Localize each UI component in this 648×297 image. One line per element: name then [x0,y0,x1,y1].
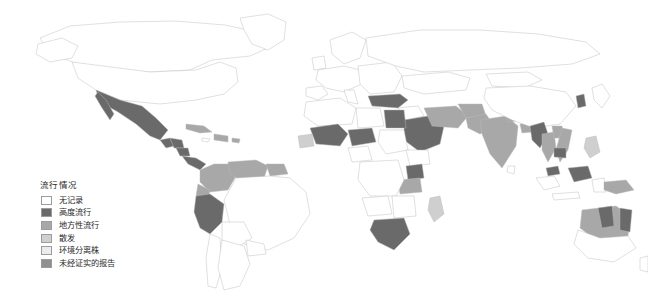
country-eastern-europe [358,62,402,94]
country-kenya [406,164,424,180]
legend-label-environmental-isolate: 环境分离株 [59,245,99,256]
country-sumatra [536,176,560,190]
country-malaysia [546,166,560,176]
legend-item-environmental-isolate[interactable]: 环境分离株 [38,244,168,257]
legend-label-unconfirmed-report: 未经证实的报告 [59,258,115,269]
country-costa-rica-panama [182,156,206,170]
country-jamaica [202,138,210,142]
country-libya [356,108,384,128]
region-australia-queensland [620,208,632,232]
legend-item-endemic[interactable]: 地方性流行 [38,219,168,232]
country-mongolia [486,72,542,88]
country-scandinavia [330,32,366,64]
legend-label-endemic: 地方性流行 [59,220,99,231]
country-java [552,192,580,200]
country-japan [592,84,610,108]
legend-title: 流行情况 [40,180,168,191]
country-sudan [378,130,408,154]
country-british-isles [312,56,326,70]
legend-item-no-record[interactable]: 无记录 [38,194,168,207]
country-turkey [368,94,408,108]
swatch-environmental-isolate [41,246,52,255]
legend-label-highly-endemic: 高度流行 [59,207,91,218]
swatch-highly-endemic [41,208,52,217]
country-korea [576,94,586,108]
country-egypt [384,110,406,128]
legend-item-highly-endemic[interactable]: 高度流行 [38,207,168,220]
country-ethiopia [406,150,430,166]
country-kazakhstan [402,72,470,94]
country-south-africa [370,218,410,250]
country-nicaragua [176,148,190,156]
country-puerto-rico [232,138,240,143]
country-peru [194,194,224,234]
swatch-no-record [41,196,52,205]
country-mali [310,124,348,146]
country-russia [366,30,600,72]
country-borneo [568,166,592,182]
world-prevalence-map: 流行情况 无记录 高度流行 地方性流行 散发 环境分离株 未经证实的报告 [0,0,648,297]
country-india [480,116,518,168]
legend-item-sporadic[interactable]: 散发 [38,232,168,245]
legend-label-sporadic: 散发 [59,233,75,244]
country-iberia [306,86,328,100]
legend-item-unconfirmed-report[interactable]: 未经证实的报告 [38,257,168,270]
legend: 流行情况 无记录 高度流行 地方性流行 散发 环境分离株 未经证实的报告 [38,180,168,270]
country-new-zealand [640,256,648,272]
swatch-endemic [41,221,52,230]
country-angola [362,196,392,216]
country-congo [358,160,404,196]
country-niger [348,128,376,146]
country-senegal-guinea [298,134,314,148]
country-argentina [218,240,250,290]
country-guyanas [266,164,288,176]
country-nigeria [348,146,372,162]
country-zambia-zimbabwe [392,196,416,218]
country-cuba [186,124,212,133]
swatch-unconfirmed-report [41,259,52,268]
country-cambodia [554,148,566,158]
country-philippines [584,136,600,158]
country-papua-new-guinea [604,180,634,194]
country-madagascar [428,196,444,222]
swatch-sporadic [41,234,52,243]
country-hispaniola [214,134,228,142]
legend-label-no-record: 无记录 [59,195,83,206]
country-sri-lanka [507,166,515,174]
